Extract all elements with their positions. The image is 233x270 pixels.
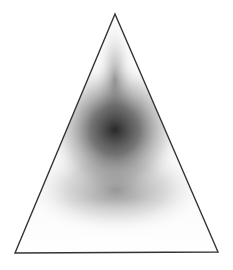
ternary-density-plot bbox=[0, 0, 233, 270]
simplex-svg bbox=[0, 0, 233, 270]
density-field bbox=[0, 0, 233, 270]
